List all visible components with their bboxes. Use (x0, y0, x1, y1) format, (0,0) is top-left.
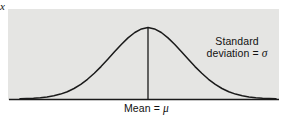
mean-annotation: Mean = μ (124, 103, 169, 115)
standard-deviation-annotation: Standard deviation = σ (199, 36, 275, 59)
mu-symbol: μ (163, 102, 169, 114)
standard-deviation-text: deviation = (207, 47, 262, 59)
sigma-symbol: σ (262, 47, 268, 59)
standard-deviation-line2: deviation = σ (199, 48, 275, 60)
mean-text: Mean = (124, 102, 163, 114)
normal-distribution-figure: Standard deviation = σ Mean = μ x (0, 0, 287, 125)
